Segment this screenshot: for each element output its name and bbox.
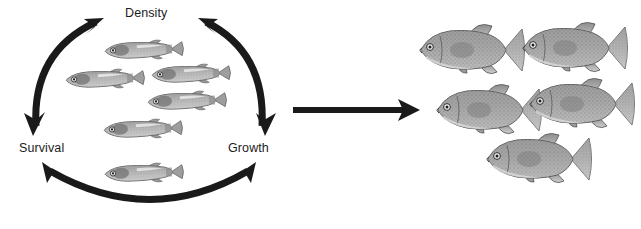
diagram-canvas: [0, 0, 641, 229]
cycle-node-label-survival: Survival: [19, 142, 64, 155]
adult-fish: [437, 84, 542, 133]
adult-fish-group: [420, 22, 635, 182]
juvenile-fish: [66, 68, 145, 90]
juvenile-fish: [105, 162, 184, 184]
juvenile-fish: [105, 39, 184, 61]
adult-fish: [487, 133, 592, 182]
fish-population-cycle-figure: Density Survival Growth: [0, 0, 641, 229]
juvenile-fish: [104, 118, 183, 140]
cycle-node-label-density: Density: [125, 7, 167, 20]
juvenile-fish-group: [66, 39, 231, 184]
adult-fish: [530, 78, 635, 127]
juvenile-fish: [148, 90, 227, 112]
growth-transition-arrow: [293, 99, 420, 121]
adult-fish: [420, 24, 525, 73]
cycle-node-label-growth: Growth: [228, 142, 269, 155]
adult-fish: [523, 22, 628, 71]
juvenile-fish: [152, 63, 231, 85]
